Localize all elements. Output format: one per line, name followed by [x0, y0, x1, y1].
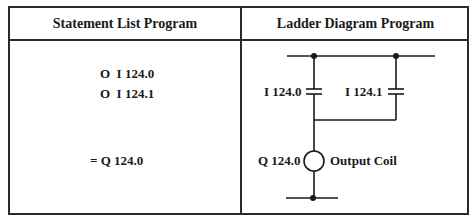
coil-address-label: Q 124.0	[258, 153, 301, 169]
contact-1-label: I 124.0	[264, 84, 302, 100]
output-coil-icon	[304, 151, 324, 171]
junction-dot-right	[393, 53, 399, 59]
ladder-diagram	[0, 0, 475, 219]
junction-dot-left	[311, 53, 317, 59]
contact-2-label: I 124.1	[345, 84, 383, 100]
junction-dot-bottom	[310, 195, 316, 201]
coil-description-label: Output Coil	[330, 153, 397, 169]
